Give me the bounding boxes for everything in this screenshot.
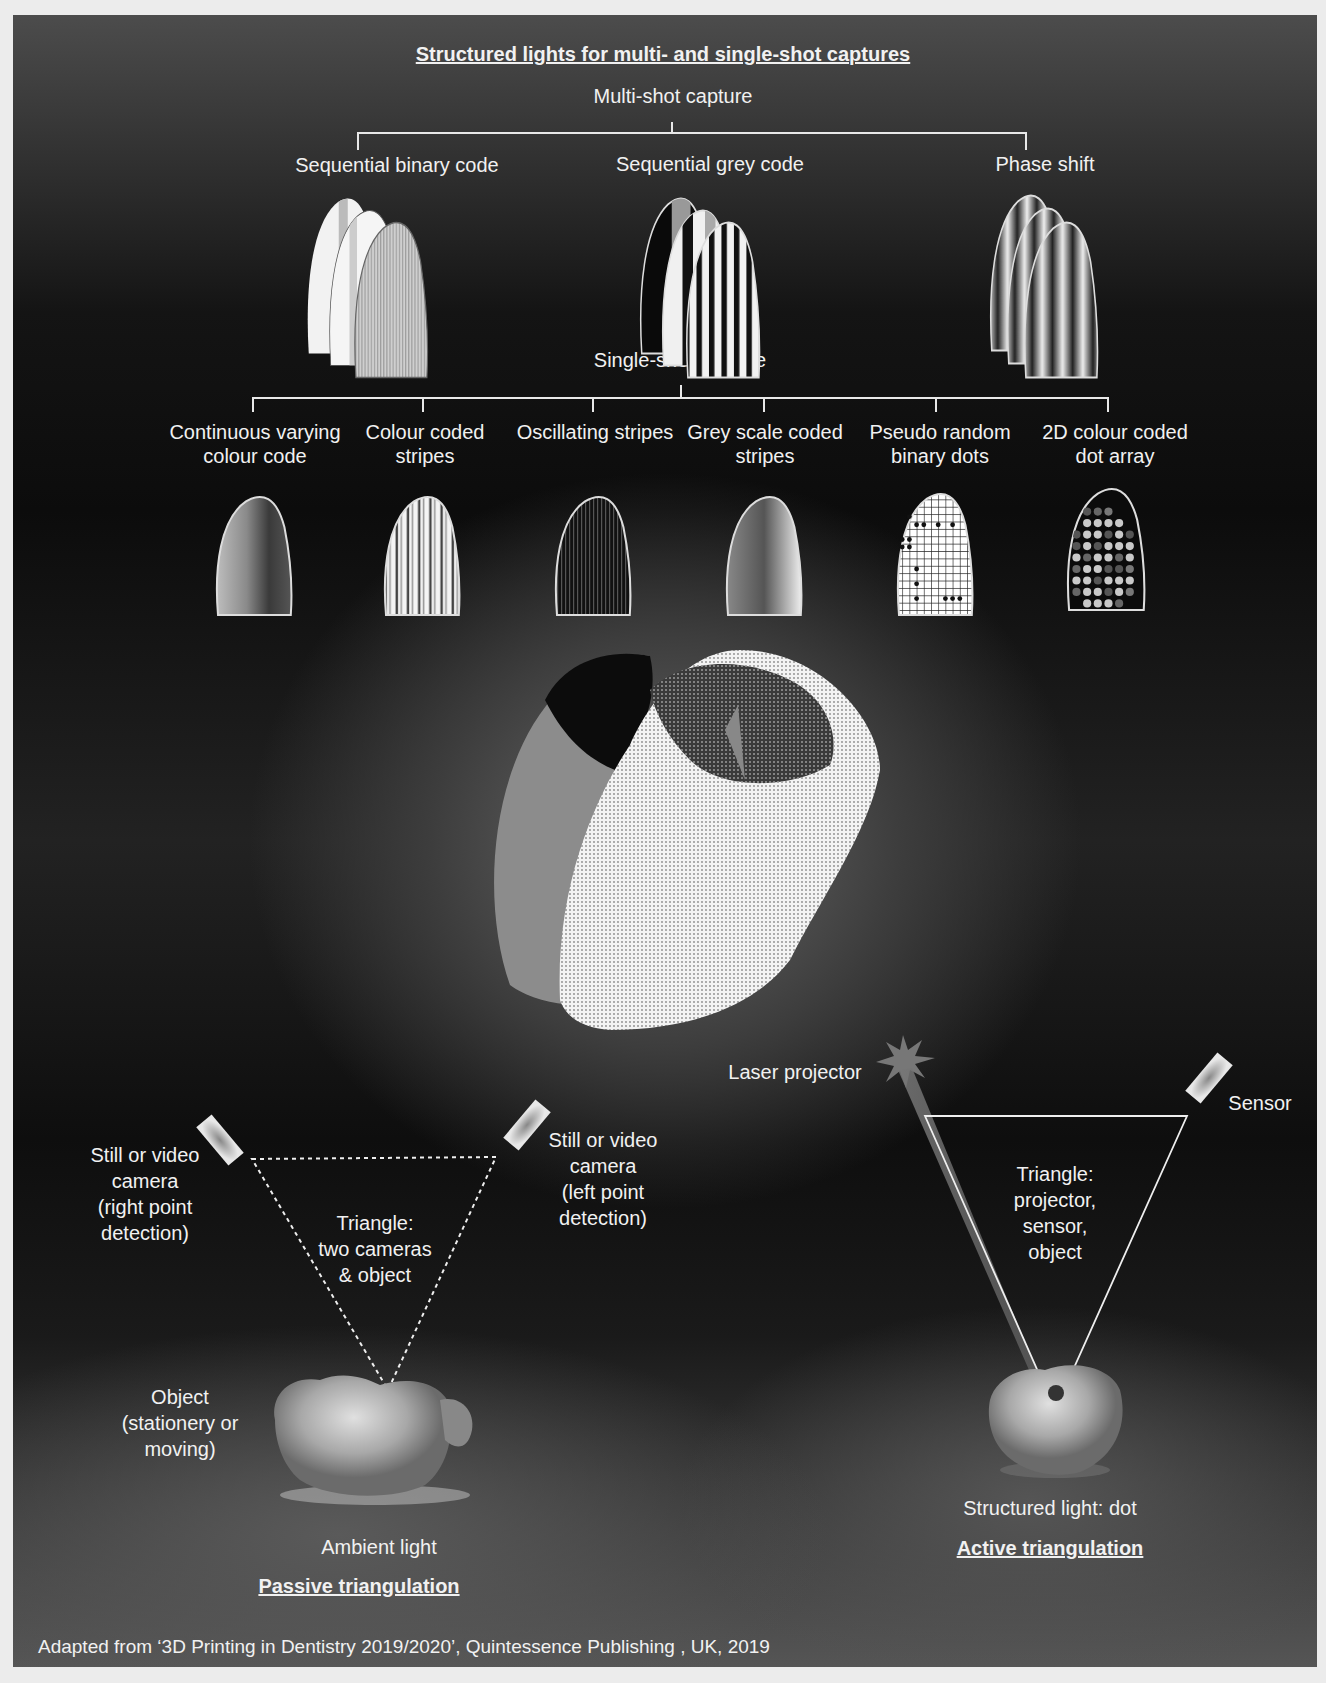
multi-shot-tree-lines [358,122,1026,150]
structured-light-dot-label: Structured light: dot [940,1496,1160,1520]
tooth-oscillating-stripes [556,497,630,615]
center-3d-scan-model [494,650,880,1030]
tooth-sequential-binary [308,196,428,378]
attribution-footer: Adapted from ‘3D Printing in Dentistry 2… [38,1636,770,1659]
single-shot-tree-lines [253,385,1108,412]
tooth-grey-scale-stripes [727,497,801,615]
passive-object-tooth [274,1375,472,1505]
structured-light-dot [1048,1385,1064,1401]
tooth-colour-stripes [385,497,459,615]
active-object-tooth [989,1365,1123,1478]
passive-camera-right-label: Still or videocamera(right pointdetectio… [70,1142,220,1246]
passive-triangulation-heading: Passive triangulation [239,1574,479,1598]
ambient-light-label: Ambient light [279,1535,479,1559]
passive-object-label: Object(stationery ormoving) [105,1384,255,1462]
active-triangulation-heading: Active triangulation [940,1536,1160,1560]
tooth-pseudo-random-dots [898,494,972,615]
sensor-label: Sensor [1220,1091,1300,1115]
passive-camera-left-label: Still or videocamera(left pointdetection… [528,1127,678,1231]
laser-projector-label: Laser projector [700,1060,890,1084]
tooth-sequential-grey [641,196,760,378]
active-triangle-label: Triangle:projector,sensor,object [985,1161,1125,1265]
tooth-phase-shift [991,196,1098,378]
tooth-continuous-colour [217,497,291,615]
passive-triangle-label: Triangle:two cameras& object [300,1210,450,1288]
tooth-2d-dot-array [1068,489,1144,610]
